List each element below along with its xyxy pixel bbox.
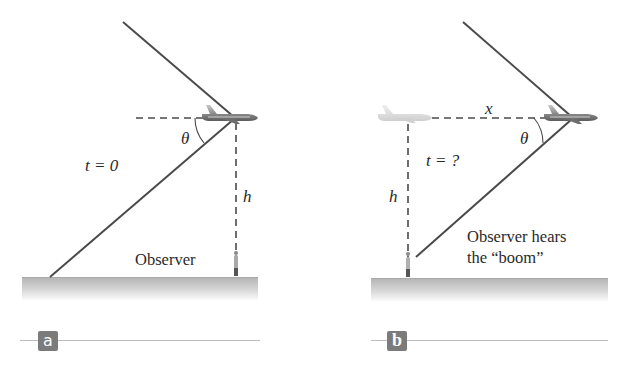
angle-arc-b xyxy=(534,118,543,143)
time-label-b: t = ? xyxy=(426,152,459,169)
panel-a xyxy=(20,22,260,341)
shock-wave-upper-b xyxy=(463,22,572,117)
time-label-a: t = 0 xyxy=(85,157,118,174)
shock-wave-upper-a xyxy=(123,22,234,117)
ghost-airplane-icon xyxy=(378,105,432,123)
panel-b xyxy=(371,22,608,341)
observer-figure-a xyxy=(234,251,238,276)
angle-arc-a xyxy=(195,118,204,143)
sonic-boom-diagram xyxy=(0,0,631,366)
height-label-b: h xyxy=(389,188,398,205)
observer-label-b-line2: the “boom” xyxy=(467,250,544,267)
airplane-icon xyxy=(544,105,598,124)
observer-figure-b xyxy=(406,252,410,277)
observer-label-a: Observer xyxy=(135,252,195,269)
observer-label-b-line1: Observer hears xyxy=(467,229,566,246)
time-label-a-text: t = 0 xyxy=(85,156,118,175)
panel-badge-a: a xyxy=(38,331,58,351)
angle-label-a: θ xyxy=(181,130,189,147)
distance-label-x: x xyxy=(485,100,493,117)
height-label-a: h xyxy=(243,188,252,205)
ground-b xyxy=(371,278,608,302)
angle-label-b: θ xyxy=(520,130,528,147)
ground-a xyxy=(22,277,258,301)
panel-badge-b: b xyxy=(387,331,407,351)
airplane-icon xyxy=(202,105,258,124)
